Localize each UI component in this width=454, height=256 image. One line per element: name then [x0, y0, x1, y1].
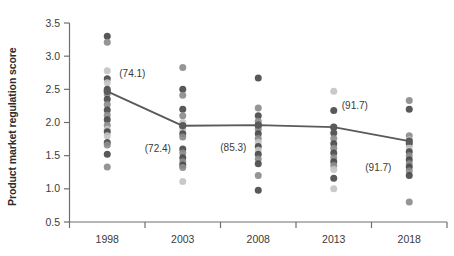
data-point — [179, 64, 186, 71]
y-axis-title: Product market regulation score — [6, 47, 18, 206]
data-point — [406, 106, 413, 113]
data-point — [330, 107, 337, 114]
data-point — [255, 104, 262, 111]
trend-vertex — [104, 88, 111, 95]
x-tick-label: 2018 — [398, 233, 422, 245]
annotation-label: (72.4) — [145, 143, 171, 154]
data-point — [179, 164, 186, 171]
chart-container: Product market regulation score 0.51.01.… — [0, 0, 454, 256]
data-point — [104, 33, 111, 40]
x-tick-label: 2003 — [171, 233, 195, 245]
data-point — [179, 106, 186, 113]
data-point — [179, 112, 186, 119]
annotation-label: (91.7) — [342, 100, 368, 111]
annotation-label: (74.1) — [119, 68, 145, 79]
y-axis-title-text: Product market regulation score — [6, 47, 18, 206]
data-point — [104, 151, 111, 158]
trend-vertex — [330, 124, 337, 131]
data-point — [179, 178, 186, 185]
data-point — [330, 185, 337, 192]
data-point — [255, 187, 262, 194]
data-point — [330, 166, 337, 173]
y-tick-label: 2.5 — [45, 83, 60, 95]
y-tick-label: 1.5 — [45, 149, 60, 161]
y-tick-label: 3.5 — [45, 17, 60, 29]
trend-vertex — [255, 122, 262, 129]
data-point — [255, 172, 262, 179]
data-point — [104, 163, 111, 170]
trend-vertex — [179, 122, 186, 129]
x-tick-label: 2008 — [247, 233, 271, 245]
data-point — [104, 79, 111, 86]
data-point — [104, 132, 111, 139]
data-point — [104, 67, 111, 74]
data-point — [330, 175, 337, 182]
data-point — [104, 142, 111, 149]
data-point — [104, 39, 111, 46]
annotation-label: (85.3) — [220, 142, 246, 153]
data-point — [406, 97, 413, 104]
y-tick-label: 1.0 — [45, 182, 60, 194]
data-point — [406, 199, 413, 206]
annotation-label: (91.7) — [365, 162, 391, 173]
x-tick-label: 2013 — [322, 233, 346, 245]
x-axis-ticks: 19982003200820132018 — [70, 222, 448, 245]
data-point — [330, 88, 337, 95]
y-tick-label: 2.0 — [45, 116, 60, 128]
data-point — [255, 75, 262, 82]
y-tick-label: 3.0 — [45, 50, 60, 62]
y-axis-ticks: 0.51.01.52.02.53.03.5 — [45, 17, 69, 228]
data-point — [179, 134, 186, 141]
data-point — [179, 92, 186, 99]
data-point — [179, 86, 186, 93]
scatter-plot: Product market regulation score 0.51.01.… — [0, 0, 454, 256]
data-point — [406, 172, 413, 179]
y-tick-label: 0.5 — [45, 216, 60, 228]
data-points-layer — [104, 33, 413, 206]
trend-vertex — [406, 137, 413, 144]
data-point — [255, 160, 262, 167]
x-tick-label: 1998 — [96, 233, 120, 245]
